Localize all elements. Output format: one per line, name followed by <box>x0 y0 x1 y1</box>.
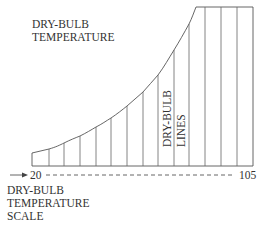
right-arrow-icon <box>10 173 28 178</box>
dry-bulb-temperature-label-line2: TEMPERATURE <box>32 31 114 43</box>
scale-label-line1: DRY-BULB <box>7 184 64 196</box>
scale-label-line3: SCALE <box>7 210 43 222</box>
dry-bulb-lines-label-line1: DRY-BULB <box>161 90 173 147</box>
dry-bulb-temperature-label-line1: DRY-BULB <box>32 18 89 30</box>
scale-label-line2: TEMPERATURE <box>7 197 89 209</box>
scale-start-value: 20 <box>30 169 42 181</box>
dry-bulb-diagram: DRY-BULB TEMPERATURE DRY-BULB LINES 20 1… <box>0 0 268 227</box>
dry-bulb-lines-label-line2: LINES <box>175 114 187 147</box>
scale-end-value: 105 <box>239 169 257 181</box>
